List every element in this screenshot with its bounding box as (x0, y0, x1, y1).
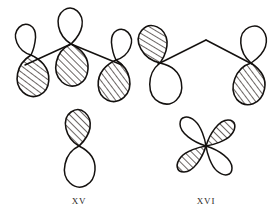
xv-left-bottom-lobe (14, 53, 51, 99)
orbital-diagram-canvas: XV XVI (0, 0, 278, 216)
xvi-left-bottom-lobe (145, 59, 186, 107)
xv-center-top-lobe (58, 8, 82, 44)
orbital-figure: XV XVI (0, 0, 278, 216)
xvi-right-bond (206, 40, 252, 64)
xvi-d-lobe-upper-left (180, 117, 206, 146)
xv-left-p-orbital (10, 22, 52, 98)
structure-xvi-top (135, 22, 273, 108)
xvi-right-bottom-lobe (231, 61, 268, 107)
xvi-d-lobe-upper-right (206, 120, 235, 146)
xvi-d-lobe-lower-right (206, 146, 232, 175)
xv-center-p-orbital (56, 8, 88, 86)
structure-xv-top (10, 8, 138, 103)
xvi-right-p-orbital (231, 24, 273, 107)
xv-center-bottom-lobe (56, 44, 88, 86)
xv-right-p-orbital (96, 27, 138, 103)
xvi-left-p-orbital (135, 22, 185, 108)
label-xv: XV (72, 196, 87, 206)
xv-lower-top-lobe (65, 110, 90, 146)
xvi-d-orbital (177, 117, 235, 175)
xv-right-top-lobe (109, 28, 133, 62)
label-xvi: XVI (197, 196, 215, 206)
xv-lower-p-orbital (64, 110, 95, 187)
xv-right-bottom-lobe (96, 58, 133, 104)
xv-lower-bottom-lobe (64, 146, 95, 187)
xv-left-top-lobe (14, 23, 38, 57)
xvi-d-lobe-lower-left (177, 146, 206, 172)
